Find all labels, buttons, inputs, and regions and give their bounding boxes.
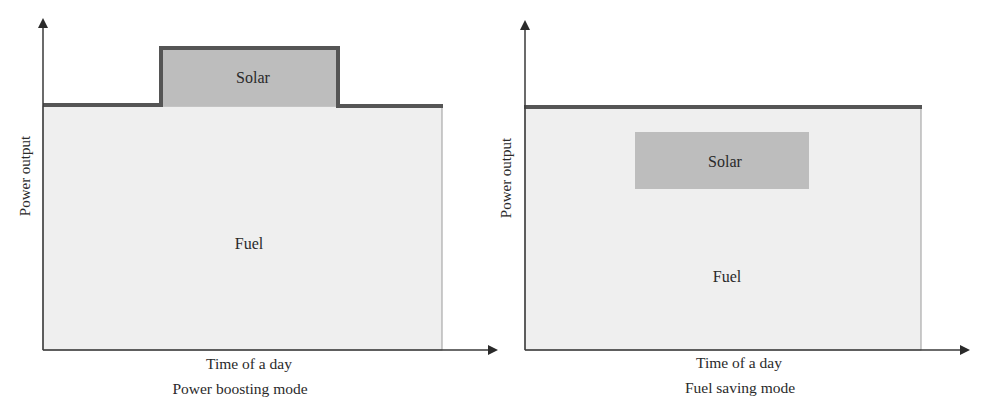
diagram-canvas: Solar Fuel Power output Time of a day Po… — [0, 0, 987, 414]
fuel-label: Fuel — [713, 268, 742, 285]
fuel-label: Fuel — [235, 235, 264, 252]
fuel-region — [43, 106, 442, 350]
x-axis-label: Time of a day — [696, 354, 782, 371]
panel-caption: Fuel saving mode — [685, 379, 795, 396]
panel-power-boosting: Solar Fuel Power output Time of a day Po… — [17, 20, 496, 397]
solar-label: Solar — [236, 69, 270, 86]
solar-label: Solar — [708, 153, 742, 170]
panel-caption: Power boosting mode — [172, 380, 307, 397]
x-axis-label: Time of a day — [206, 355, 292, 372]
panel-fuel-saving: Solar Fuel Power output Time of a day Fu… — [498, 22, 968, 396]
y-axis-label: Power output — [17, 135, 33, 216]
y-axis-label: Power output — [498, 137, 514, 218]
